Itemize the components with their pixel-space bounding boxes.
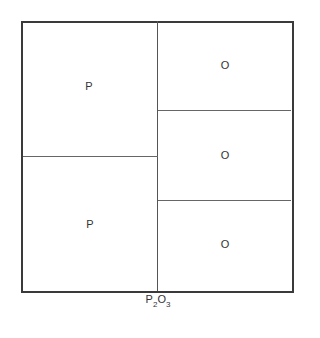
right-horizontal-divider-1 bbox=[158, 110, 291, 111]
cell-label-o-middle: O bbox=[221, 149, 230, 161]
cell-label-p-bottom: P bbox=[86, 218, 93, 230]
left-horizontal-divider bbox=[23, 156, 158, 157]
cell-label-p-top: P bbox=[85, 80, 92, 92]
cell-label-o-top: O bbox=[221, 59, 230, 71]
formula-caption: P2O3 bbox=[146, 293, 171, 308]
right-horizontal-divider-2 bbox=[158, 200, 291, 201]
caption-o-sub: 3 bbox=[166, 300, 170, 309]
cell-label-o-bottom: O bbox=[221, 238, 230, 250]
